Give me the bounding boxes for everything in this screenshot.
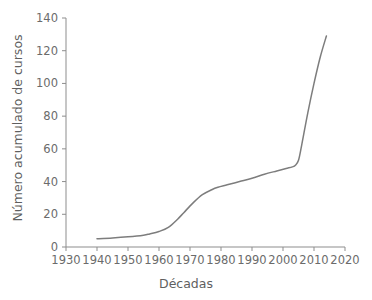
y-axis: 020406080100120140 bbox=[36, 11, 66, 254]
line-chart: 020406080100120140 193019401950196019701… bbox=[0, 0, 372, 300]
x-tick-label: 2020 bbox=[330, 253, 359, 267]
x-tick-label: 2010 bbox=[299, 253, 328, 267]
x-tick-group: 1930194019501960197019801990200020102020 bbox=[51, 247, 359, 267]
x-tick-label: 1950 bbox=[113, 253, 142, 267]
x-tick-label: 1940 bbox=[82, 253, 111, 267]
x-tick-label: 2000 bbox=[268, 253, 297, 267]
x-tick-label: 1980 bbox=[206, 253, 235, 267]
y-tick-label: 0 bbox=[51, 240, 58, 254]
y-tick-group: 020406080100120140 bbox=[36, 11, 66, 254]
x-axis-title: Décadas bbox=[159, 276, 213, 291]
y-tick-label: 60 bbox=[43, 142, 58, 156]
x-tick-label: 1970 bbox=[175, 253, 204, 267]
y-tick-label: 20 bbox=[43, 207, 58, 221]
y-axis-title: Número acumulado de cursos bbox=[10, 34, 25, 221]
x-axis: 1930194019501960197019801990200020102020 bbox=[51, 247, 359, 267]
x-tick-label: 1930 bbox=[51, 253, 80, 267]
chart-canvas: 020406080100120140 193019401950196019701… bbox=[0, 0, 372, 300]
y-tick-label: 40 bbox=[43, 175, 58, 189]
y-tick-label: 140 bbox=[36, 11, 58, 25]
y-tick-label: 120 bbox=[36, 44, 58, 58]
x-tick-label: 1990 bbox=[237, 253, 266, 267]
y-tick-label: 100 bbox=[36, 76, 58, 90]
series-line-cursos bbox=[97, 36, 326, 239]
y-tick-label: 80 bbox=[43, 109, 58, 123]
x-tick-label: 1960 bbox=[144, 253, 173, 267]
